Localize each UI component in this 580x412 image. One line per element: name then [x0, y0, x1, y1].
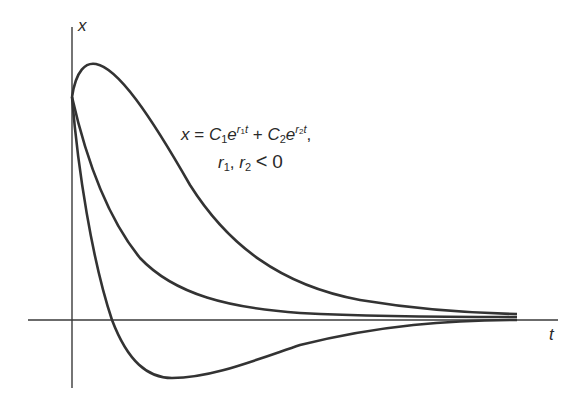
equation-line-2: r1, r2 < 0 [218, 150, 283, 173]
curve-overshoot [72, 64, 517, 314]
y-axis-label: x [78, 16, 87, 36]
x-axis-label: t [549, 325, 554, 345]
phase-diagram [0, 0, 580, 412]
equation-line-1: x = C1er1t + C2er2t, [181, 123, 311, 145]
